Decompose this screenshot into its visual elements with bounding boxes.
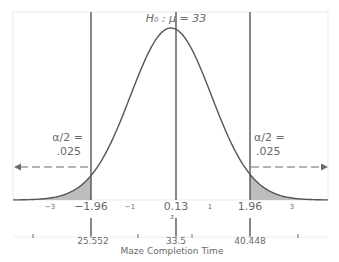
normal-curve bbox=[13, 28, 328, 200]
raw-axis-label: Maze Completion Time bbox=[121, 246, 224, 256]
left-tail-area bbox=[13, 176, 91, 200]
z-tick-label: 3 bbox=[290, 203, 294, 211]
left-alpha-label-line2: .025 bbox=[57, 145, 82, 158]
hypothesis-test-chart: H₀ : μ = 33 α/2 = .025 α/2 = .025 −3 −1.… bbox=[0, 0, 339, 262]
hypothesis-label: H₀ : μ = 33 bbox=[146, 12, 207, 25]
left-alpha-label-line1: α/2 = bbox=[52, 131, 83, 144]
raw-critical-right-label: 40.448 bbox=[234, 236, 266, 246]
z-critical-left-label: −1.96 bbox=[74, 200, 108, 213]
plot-frame bbox=[13, 12, 328, 200]
z-axis-label: z bbox=[170, 213, 174, 221]
raw-observed-label: 33.5 bbox=[166, 236, 186, 246]
left-arrowhead-icon bbox=[14, 164, 21, 171]
z-tick-label: −3 bbox=[45, 203, 55, 211]
z-observed-label: 0.13 bbox=[164, 200, 189, 213]
z-critical-right-label: 1.96 bbox=[238, 200, 263, 213]
raw-critical-left-label: 25.552 bbox=[77, 236, 109, 246]
z-tick-label: 1 bbox=[208, 203, 212, 211]
z-tick-label: −1 bbox=[125, 203, 135, 211]
right-alpha-label-line1: α/2 = bbox=[254, 131, 285, 144]
right-arrowhead-icon bbox=[321, 164, 328, 171]
right-alpha-label-line2: .025 bbox=[256, 145, 281, 158]
right-tail-area bbox=[250, 174, 328, 200]
